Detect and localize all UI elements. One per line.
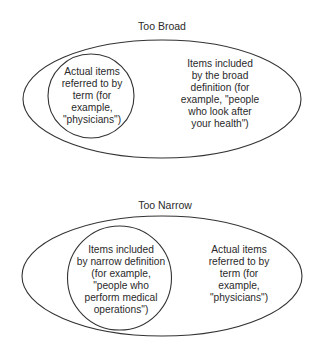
label-line: operations") <box>94 304 149 315</box>
label-line: term (for <box>220 268 259 279</box>
label-line: definition (for <box>191 82 250 93</box>
label-line: who look after <box>187 106 252 117</box>
label-line: example, <box>218 280 259 291</box>
label-line: example, <box>71 102 112 113</box>
label-line: term (for <box>73 90 112 101</box>
label-line: by the broad <box>192 70 249 81</box>
label-line: Items included <box>187 58 253 69</box>
label-line: perform medical <box>84 292 157 303</box>
too-broad-diagram: Too Broad Actual items referred to by te… <box>23 20 301 158</box>
actual-items-label: Actual items referred to by term (for ex… <box>62 66 123 125</box>
narrow-definition-label: Items included by narrow definition (for… <box>77 244 165 315</box>
broad-definition-label: Items included by the broad definition (… <box>181 58 260 129</box>
label-line: "physicians") <box>210 292 268 303</box>
label-line: "people who <box>93 280 149 291</box>
label-line: Items included <box>88 244 154 255</box>
label-line: "physicians") <box>63 114 121 125</box>
too-narrow-diagram: Too Narrow Items included by narrow defi… <box>22 199 302 336</box>
too-broad-title: Too Broad <box>138 20 186 32</box>
definition-scope-diagram: Too Broad Actual items referred to by te… <box>0 0 323 354</box>
too-narrow-title: Too Narrow <box>138 199 192 211</box>
label-line: example, "people <box>181 94 260 105</box>
label-line: by narrow definition <box>77 256 165 267</box>
label-line: your health") <box>191 118 248 129</box>
label-line: Actual items <box>211 244 266 255</box>
label-line: referred to by <box>209 256 270 267</box>
broad-definition-ellipse <box>23 40 301 158</box>
label-line: Actual items <box>64 66 119 77</box>
actual-items-ellipse <box>22 216 302 336</box>
label-line: referred to by <box>62 78 123 89</box>
label-line: (for example, <box>91 268 150 279</box>
actual-items-label: Actual items referred to by term (for ex… <box>209 244 270 303</box>
